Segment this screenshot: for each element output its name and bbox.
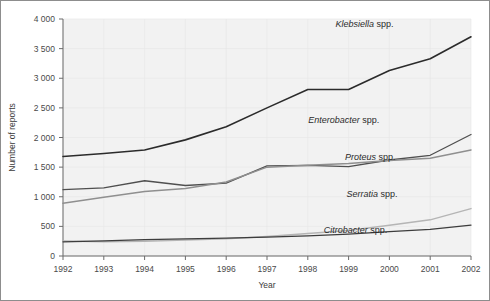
y-tick-label: 1 500 <box>34 162 56 172</box>
series-label-proteus: Proteus spp. <box>345 152 396 162</box>
y-tick-label: 0 <box>50 251 55 261</box>
x-tick-label: 1998 <box>298 264 317 274</box>
y-tick-label: 2 500 <box>34 103 56 113</box>
x-tick-label: 1992 <box>54 264 73 274</box>
series-label-citrobacter: Citrobacter spp. <box>324 225 388 235</box>
x-tick-label: 2000 <box>380 264 399 274</box>
x-tick-label: 2001 <box>421 264 440 274</box>
y-tick-label: 3 000 <box>34 73 56 83</box>
series-label-enterobacter: Enterobacter spp. <box>308 115 379 125</box>
x-tick-label: 1996 <box>217 264 236 274</box>
x-axis-title: Year <box>258 280 275 290</box>
x-tick-label: 1997 <box>258 264 277 274</box>
line-chart: 05001 0001 5002 0002 5003 0003 5004 0001… <box>1 1 490 301</box>
x-tick-label: 1994 <box>135 264 154 274</box>
y-tick-label: 3 500 <box>34 44 56 54</box>
x-tick-label: 2002 <box>462 264 481 274</box>
x-tick-label: 1999 <box>339 264 358 274</box>
y-tick-label: 1 000 <box>34 192 56 202</box>
y-tick-label: 2 000 <box>34 133 56 143</box>
series-label-klebsiella: Klebsiella spp. <box>335 19 393 29</box>
y-tick-label: 4 000 <box>34 14 56 24</box>
y-axis-title: Number of reports <box>7 103 17 172</box>
x-tick-label: 1993 <box>94 264 113 274</box>
chart-figure: 05001 0001 5002 0002 5003 0003 5004 0001… <box>0 0 490 301</box>
series-label-serratia: Serratia spp. <box>347 189 398 199</box>
x-tick-label: 1995 <box>176 264 195 274</box>
y-tick-label: 500 <box>41 221 55 231</box>
